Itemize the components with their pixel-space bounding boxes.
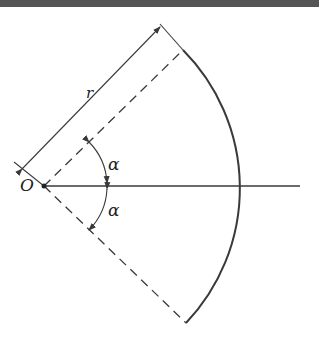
origin-point: [42, 184, 47, 189]
sector-diagram: [0, 0, 319, 341]
alpha-arc-lower: [89, 189, 107, 230]
alpha-upper-label: α: [108, 154, 119, 174]
radius-label: r: [86, 84, 93, 102]
alpha-arc-upper: [89, 142, 107, 183]
origin-label: O: [20, 175, 34, 195]
radius-extension-far: [160, 24, 183, 50]
alpha-lower-label: α: [108, 200, 119, 220]
